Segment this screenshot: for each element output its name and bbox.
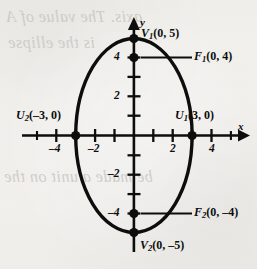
point-label-f2-letter: F xyxy=(194,205,202,219)
point-label-u1-letter: U xyxy=(175,108,184,122)
point-label-u2-letter: U xyxy=(16,108,25,122)
point-label-f2: F2(0, –4) xyxy=(194,205,238,220)
point-u1[interactable] xyxy=(188,131,197,140)
y-tick-label-2: 2 xyxy=(114,89,120,101)
x-axis xyxy=(22,129,250,142)
y-tick-label-4: 4 xyxy=(114,50,120,62)
point-label-v2: V2(0, –5) xyxy=(140,238,184,253)
point-label-v2-coords: (0, –5) xyxy=(152,238,184,252)
point-v2[interactable] xyxy=(129,228,138,237)
point-label-f1-coords: (0, 4) xyxy=(206,49,232,63)
y-tick-label--4: –4 xyxy=(108,206,120,218)
y-axis-arrowhead xyxy=(128,17,140,30)
x-tick-label--2: –2 xyxy=(88,142,100,154)
point-label-u1-coords: (3, 0) xyxy=(188,108,214,122)
point-label-f1-letter: F xyxy=(194,49,202,63)
point-v1[interactable] xyxy=(129,34,138,43)
point-label-u2-coords: (–3, 0) xyxy=(29,108,61,122)
x-tick-label-2: 2 xyxy=(170,142,176,154)
point-u2[interactable] xyxy=(71,131,80,140)
x-axis-label: x xyxy=(238,120,244,132)
y-tick-label--2: –2 xyxy=(108,167,120,179)
point-label-u2: U2(–3, 0) xyxy=(16,108,61,123)
figure-page: axis. The value of A is the ellipse be m… xyxy=(0,0,257,269)
point-label-v2-letter: V xyxy=(140,238,148,252)
point-label-u1: U1(3, 0) xyxy=(175,108,214,123)
point-label-f2-coords: (0, –4) xyxy=(206,205,238,219)
point-label-v1-coords: (0, 5) xyxy=(153,26,179,40)
point-f2[interactable] xyxy=(129,209,138,218)
point-label-v1-letter: V xyxy=(141,26,149,40)
x-tick-label--4: –4 xyxy=(49,142,61,154)
point-f1[interactable] xyxy=(129,53,138,62)
graph-canvas xyxy=(0,0,257,269)
x-tick-label-4: 4 xyxy=(209,142,215,154)
point-label-f1: F1(0, 4) xyxy=(194,49,232,64)
point-label-v1: V1(0, 5) xyxy=(141,26,179,41)
